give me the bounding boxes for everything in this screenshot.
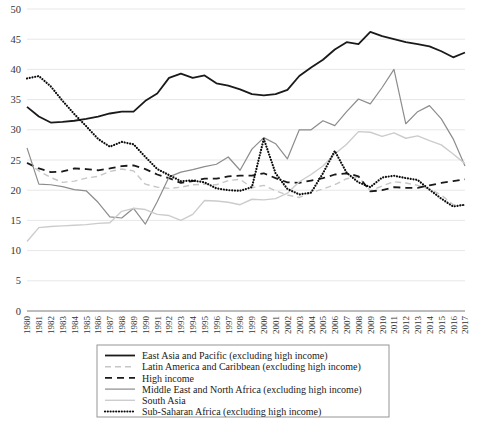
legend-label-1: Latin America and Caribbean (excluding h… (142, 361, 361, 373)
x-tick-label: 1994 (188, 316, 198, 335)
legend-label-2: High income (142, 373, 194, 384)
x-tick-label: 1995 (200, 316, 210, 335)
x-tick-label: 2014 (425, 316, 435, 335)
x-tick-label: 1985 (82, 316, 92, 335)
chart-legend: East Asia and Pacific (excluding high in… (97, 345, 389, 418)
x-tick-label: 1999 (247, 316, 257, 335)
legend-label-5: Sub-Saharan Africa (excluding high incom… (142, 406, 321, 418)
x-tick-label: 1986 (93, 316, 103, 335)
x-tick-label: 2012 (401, 316, 411, 334)
x-tick-label: 2011 (389, 316, 399, 334)
x-tick-label: 1982 (46, 316, 56, 334)
legend-label-3: Middle East and North Africa (excluding … (142, 384, 362, 396)
series-line-1 (27, 162, 465, 205)
y-tick-label: 35 (11, 94, 22, 105)
x-tick-label: 1996 (212, 316, 222, 335)
y-tick-label: 10 (11, 245, 22, 256)
y-tick-label: 50 (11, 4, 22, 15)
x-tick-label: 2007 (342, 316, 352, 335)
x-tick-label: 1987 (105, 316, 115, 335)
x-tick-label: 1990 (141, 316, 151, 335)
y-axis-tick-labels: 05101520253035404550 (11, 4, 22, 317)
y-tick-label: 40 (11, 64, 22, 75)
x-tick-label: 1980 (22, 316, 32, 335)
x-tick-label: 2005 (318, 316, 328, 335)
x-tick-label: 1989 (129, 316, 139, 335)
series-lines (27, 32, 465, 242)
y-tick-label: 20 (11, 185, 22, 196)
y-tick-label: 45 (11, 34, 22, 45)
x-tick-label: 2006 (330, 316, 340, 335)
x-tick-label: 1992 (164, 316, 174, 334)
y-tick-label: 0 (16, 306, 21, 317)
x-tick-label: 1988 (117, 316, 127, 335)
y-tick-label: 25 (11, 155, 22, 166)
x-tick-label: 1983 (58, 316, 68, 335)
series-line-0 (27, 32, 465, 123)
x-tick-label: 1993 (176, 316, 186, 335)
x-tick-label: 2016 (449, 316, 459, 335)
legend-label-0: East Asia and Pacific (excluding high in… (142, 350, 328, 362)
x-tick-label: 2003 (295, 316, 305, 335)
x-tick-label: 2001 (271, 316, 281, 334)
chart-container: 05101520253035404550 1980198119821983198… (0, 0, 482, 423)
x-tick-label: 2004 (307, 316, 317, 335)
x-tick-label: 2008 (354, 316, 364, 335)
y-tick-label: 30 (11, 124, 22, 135)
x-tick-label: 1981 (34, 316, 44, 334)
x-tick-label: 1991 (153, 316, 163, 334)
x-tick-label: 2013 (413, 316, 423, 335)
x-tick-label: 2010 (378, 316, 388, 335)
x-tick-label: 2009 (366, 316, 376, 335)
x-tick-label: 1984 (70, 316, 80, 335)
legend-label-4: South Asia (142, 395, 186, 406)
x-tick-label: 1997 (224, 316, 234, 335)
y-tick-label: 5 (16, 275, 21, 286)
line-chart: 05101520253035404550 1980198119821983198… (0, 0, 482, 423)
x-tick-label: 2002 (283, 316, 293, 334)
legend-item-1[interactable]: Latin America and Caribbean (excluding h… (105, 361, 361, 373)
x-tick-label: 2015 (437, 316, 447, 335)
x-tick-label: 1998 (235, 316, 245, 335)
x-tick-label: 2017 (460, 316, 470, 335)
legend-item-3[interactable]: Middle East and North Africa (excluding … (105, 384, 362, 396)
x-axis-tick-labels: 1980198119821983198419851986198719881989… (22, 316, 470, 335)
y-tick-label: 15 (11, 215, 22, 226)
x-tick-label: 2000 (259, 316, 269, 335)
